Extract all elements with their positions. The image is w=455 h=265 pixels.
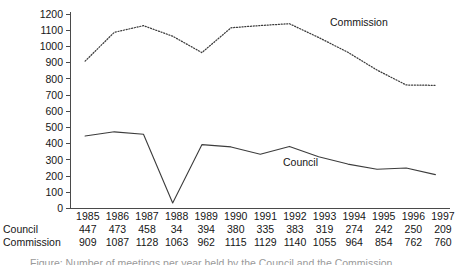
table-corner-cell [0, 210, 73, 223]
table-cell: 1128 [132, 236, 162, 249]
series-annotation-council: Council [283, 156, 318, 168]
table-row: Commission909108711281063962111511291140… [0, 236, 455, 249]
table-cell: 380 [221, 223, 251, 236]
table-cell: 962 [191, 236, 221, 249]
table-cell: 383 [280, 223, 310, 236]
y-tick-label: 800 [45, 73, 63, 85]
table-cell: 909 [73, 236, 103, 249]
table-year-header: 1987 [132, 210, 162, 223]
y-tick-label: 900 [45, 56, 63, 68]
table-year-header: 1996 [399, 210, 429, 223]
y-tick-label: 200 [45, 170, 63, 182]
table-year-header: 1994 [339, 210, 369, 223]
y-tick-label: 400 [45, 137, 63, 149]
series-value-table: 1985198619871988198919901991199219931994… [0, 210, 455, 250]
table-header-row: 1985198619871988198919901991199219931994… [0, 210, 455, 223]
table-cell: 394 [191, 223, 221, 236]
y-tick-label: 1100 [40, 24, 63, 36]
y-tick-label: 600 [45, 105, 63, 117]
table-cell: 250 [399, 223, 429, 236]
table-year-header: 1985 [73, 210, 103, 223]
y-tick-label: 1200 [40, 8, 64, 20]
table-cell: 1063 [162, 236, 192, 249]
table-cell: 1055 [310, 236, 340, 249]
table-year-header: 1988 [162, 210, 192, 223]
series-line-commission [85, 24, 435, 86]
table-cell: 209 [428, 223, 455, 236]
table-cell: 242 [369, 223, 399, 236]
table-cell: 34 [162, 223, 192, 236]
table-year-header: 1990 [221, 210, 251, 223]
table-year-header: 1991 [251, 210, 281, 223]
table-year-header: 1993 [310, 210, 340, 223]
table-row-label: Council [0, 223, 73, 236]
table-cell: 473 [103, 223, 133, 236]
table-cell: 335 [251, 223, 281, 236]
table-year-header: 1995 [369, 210, 399, 223]
y-tick-label: 500 [45, 121, 63, 133]
y-tick-label: 700 [45, 89, 63, 101]
table-cell: 458 [132, 223, 162, 236]
table-cell: 1087 [103, 236, 133, 249]
line-chart: 0100200300400500600700800900100011001200… [0, 0, 455, 212]
table-cell: 447 [73, 223, 103, 236]
table-cell: 319 [310, 223, 340, 236]
table-year-header: 1986 [103, 210, 133, 223]
table-cell: 762 [399, 236, 429, 249]
table-body: Council447473458343943803353833192742422… [0, 223, 455, 249]
table-cell: 760 [428, 236, 455, 249]
y-tick-label: 100 [45, 186, 63, 198]
y-tick-label: 300 [45, 154, 63, 166]
table-cell: 1140 [280, 236, 310, 249]
table-cell: 1129 [251, 236, 281, 249]
table-row-label: Commission [0, 236, 73, 249]
figure-container: 0100200300400500600700800900100011001200… [0, 0, 455, 265]
data-table: 1985198619871988198919901991199219931994… [0, 210, 455, 250]
series-annotation-commission: Commission [330, 16, 388, 28]
table-cell: 964 [339, 236, 369, 249]
table-year-header: 1997 [428, 210, 455, 223]
y-tick-label: 1000 [40, 40, 64, 52]
figure-caption: Figure: Number of meetings per year held… [30, 259, 430, 265]
table-year-header: 1992 [280, 210, 310, 223]
table-cell: 1115 [221, 236, 251, 249]
table-cell: 274 [339, 223, 369, 236]
caption-strip: Figure: Number of meetings per year held… [30, 259, 430, 265]
table-cell: 854 [369, 236, 399, 249]
table-row: Council447473458343943803353833192742422… [0, 223, 455, 236]
series-line-council [85, 132, 435, 203]
table-year-header: 1989 [191, 210, 221, 223]
